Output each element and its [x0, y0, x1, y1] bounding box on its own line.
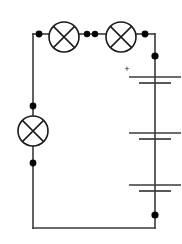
- circuit-schematic-canvas: +: [0, 0, 182, 244]
- node-lamp-left-below: [30, 160, 37, 167]
- node-lamp-left-above: [30, 103, 37, 110]
- node-battery-bottom-terminal: [151, 211, 158, 218]
- positive-terminal-label: +: [124, 64, 129, 74]
- node-top-left-corner: [36, 31, 43, 38]
- battery-right[interactable]: +: [124, 64, 181, 191]
- wire-group: [33, 34, 155, 228]
- lamp-top-right[interactable]: [106, 22, 136, 52]
- lamp-top-left[interactable]: [49, 22, 79, 52]
- circuit-diagram: +: [0, 0, 182, 244]
- lamp-left[interactable]: [18, 116, 48, 146]
- node-between-lamps: [92, 31, 98, 37]
- node-lamp-top-left-right: [84, 31, 90, 37]
- node-battery-top-terminal: [151, 52, 158, 59]
- node-top-right-corner: [142, 31, 149, 38]
